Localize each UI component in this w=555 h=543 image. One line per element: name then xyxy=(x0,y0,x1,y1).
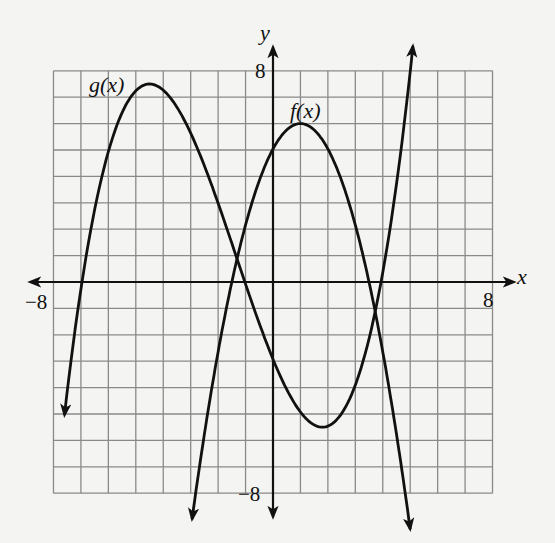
coordinate-plane xyxy=(0,0,555,543)
y-axis-label: y xyxy=(260,22,270,44)
curves xyxy=(65,46,413,529)
axes xyxy=(30,47,514,517)
f-curve-label: f(x) xyxy=(290,100,321,122)
curve-g xyxy=(65,46,413,427)
curve-f xyxy=(192,124,410,530)
g-curve-label: g(x) xyxy=(89,74,124,96)
x-max-tick-label: 8 xyxy=(483,290,494,311)
y-min-tick-label: −8 xyxy=(238,484,260,505)
x-min-tick-label: −8 xyxy=(25,292,47,313)
x-axis-label: x xyxy=(517,266,527,288)
y-max-tick-label: 8 xyxy=(255,61,266,82)
